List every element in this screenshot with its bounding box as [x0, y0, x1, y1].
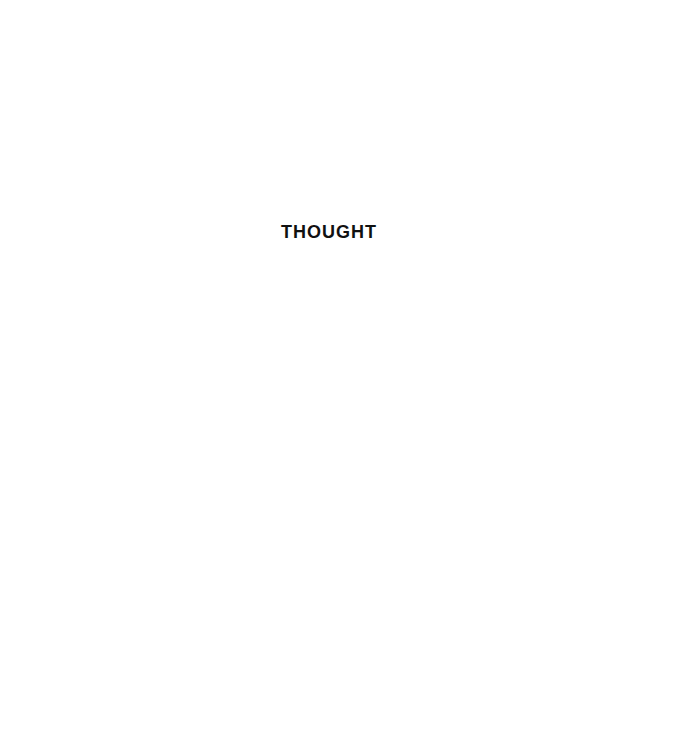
page-heading: THOUGHT: [281, 221, 377, 243]
page-canvas: THOUGHT: [0, 0, 681, 729]
